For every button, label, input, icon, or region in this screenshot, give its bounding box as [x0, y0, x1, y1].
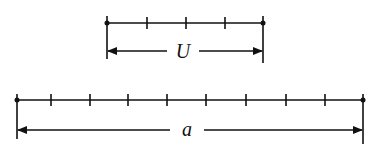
endpoint-dot — [361, 98, 366, 103]
endpoint-dot — [105, 21, 110, 26]
unit-measure-diagram: U a — [0, 0, 381, 154]
endpoint-dot — [15, 98, 20, 103]
endpoint-dot — [261, 21, 266, 26]
unit-label: U — [176, 40, 192, 62]
total-label: a — [182, 118, 192, 140]
